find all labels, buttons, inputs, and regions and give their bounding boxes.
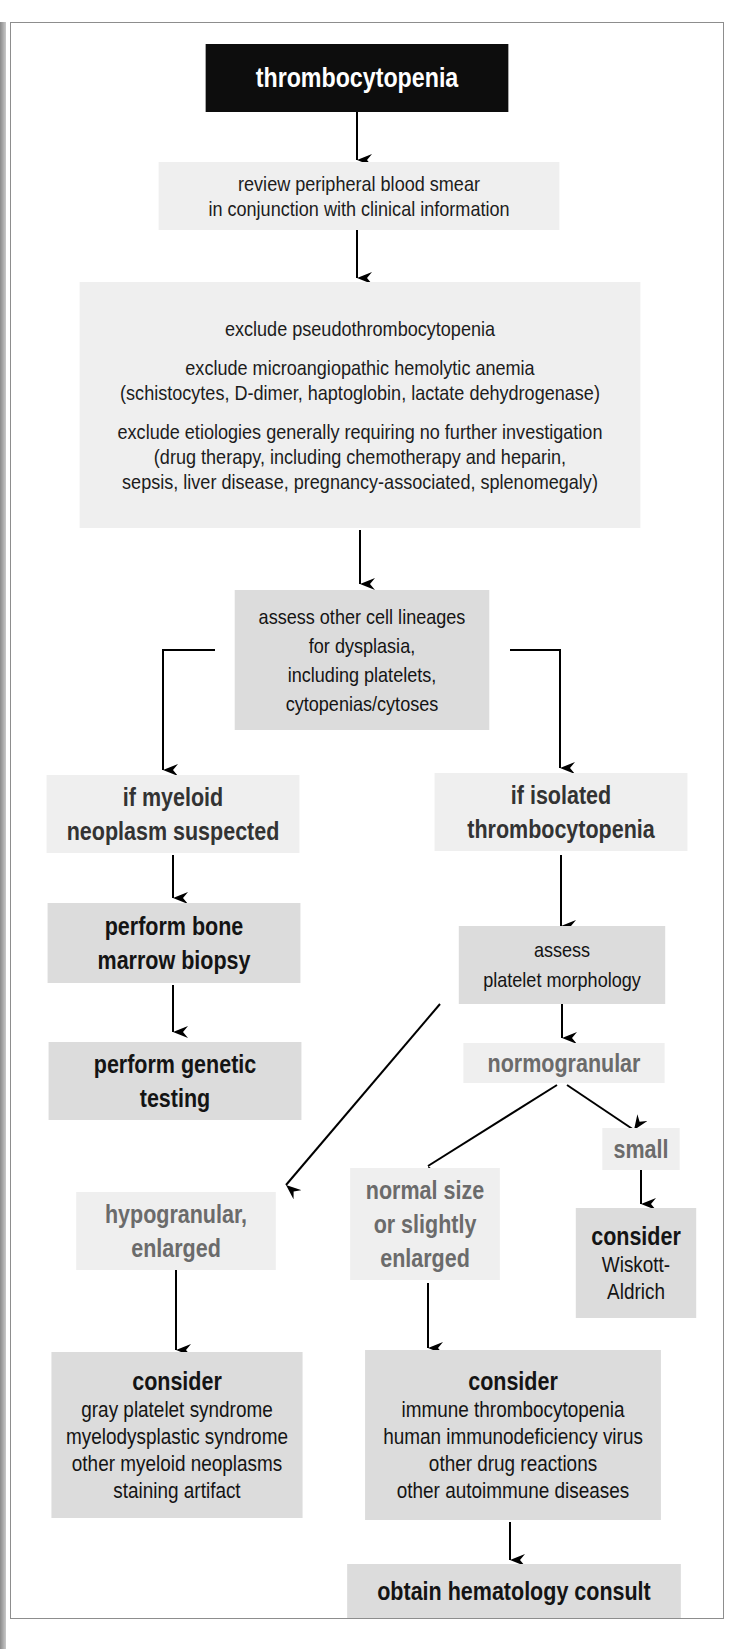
- myeloid-line-1: if myeloid: [123, 780, 223, 814]
- normal-size-line-1: normal size: [366, 1173, 484, 1207]
- genetic-line-2: testing: [140, 1081, 210, 1115]
- exclude-mah: exclude microangiopathic hemolytic anemi…: [185, 355, 534, 380]
- assess-platelet-morphology-box: assess platelet morphology: [459, 926, 665, 1004]
- myeloid-suspected-box: if myeloid neoplasm suspected: [47, 775, 300, 853]
- normogranular-text: normogranular: [488, 1046, 641, 1080]
- exclude-box: exclude pseudothrombocytopenia exclude m…: [80, 282, 641, 528]
- consider-right-box: consider immune thrombocytopenia human i…: [365, 1350, 661, 1520]
- genetic-testing-box: perform genetic testing: [49, 1042, 302, 1120]
- consider-right-item: immune thrombocytopenia: [402, 1396, 625, 1423]
- consider-left-item: other myeloid neoplasms: [72, 1450, 282, 1477]
- exclude-etiologies-detail-1: (drug therapy, including chemotherapy an…: [154, 444, 566, 469]
- consider-right-header: consider: [468, 1366, 558, 1396]
- bone-marrow-line-2: marrow biopsy: [98, 943, 251, 977]
- genetic-line-1: perform genetic: [94, 1047, 256, 1081]
- isolated-thrombocytopenia-box: if isolated thrombocytopenia: [435, 773, 688, 851]
- review-smear-box: review peripheral blood smear in conjunc…: [159, 162, 560, 230]
- hematology-consult-text: obtain hematology consult: [377, 1574, 651, 1608]
- isolated-line-1: if isolated: [511, 778, 611, 812]
- normal-size-box: normal size or slightly enlarged: [350, 1168, 500, 1280]
- normogranular-box: normogranular: [463, 1043, 664, 1083]
- assess-lineages-box: assess other cell lineages for dysplasia…: [235, 590, 490, 730]
- bone-marrow-biopsy-box: perform bone marrow biopsy: [48, 903, 301, 983]
- consider-left-item: myelodysplastic syndrome: [66, 1423, 288, 1450]
- assess-lineages-line-3: including platelets,: [288, 660, 437, 689]
- assess-lineages-line-4: cytopenias/cytoses: [286, 689, 439, 718]
- consider-left-item: staining artifact: [113, 1477, 240, 1504]
- title-text: thrombocytopenia: [256, 63, 459, 93]
- bone-marrow-line-1: perform bone: [105, 909, 244, 943]
- hypogranular-line-2: enlarged: [131, 1231, 221, 1265]
- small-text: small: [614, 1132, 669, 1166]
- exclude-pseudo: exclude pseudothrombocytopenia: [225, 316, 495, 341]
- wiskott-line-1: Wiskott-: [602, 1251, 670, 1278]
- exclude-etiologies: exclude etiologies generally requiring n…: [118, 419, 603, 444]
- consider-left-box: consider gray platelet syndrome myelodys…: [51, 1352, 302, 1518]
- assess-platelet-line-1: assess: [534, 935, 590, 965]
- assess-lineages-line-2: for dysplasia,: [309, 631, 415, 660]
- exclude-etiologies-detail-2: sepsis, liver disease, pregnancy-associa…: [122, 469, 598, 494]
- isolated-line-2: thrombocytopenia: [467, 812, 655, 846]
- consider-left-header: consider: [132, 1366, 222, 1396]
- consider-wiskott-box: consider Wiskott- Aldrich: [576, 1208, 696, 1318]
- consider-right-item: other drug reactions: [429, 1450, 597, 1477]
- hypogranular-line-1: hypogranular,: [105, 1197, 247, 1231]
- consider-right-item: other autoimmune diseases: [397, 1477, 629, 1504]
- normal-size-line-3: enlarged: [380, 1241, 470, 1275]
- review-line-2: in conjunction with clinical information: [208, 196, 509, 221]
- small-box: small: [602, 1128, 679, 1170]
- title-box: thrombocytopenia: [206, 44, 509, 112]
- hypogranular-box: hypogranular, enlarged: [76, 1192, 276, 1270]
- normal-size-line-2: or slightly: [374, 1207, 477, 1241]
- consider-left-item: gray platelet syndrome: [81, 1396, 272, 1423]
- consider-right-item: human immunodeficiency virus: [383, 1423, 643, 1450]
- exclude-mah-detail: (schistocytes, D-dimer, haptoglobin, lac…: [120, 380, 600, 405]
- myeloid-line-2: neoplasm suspected: [67, 814, 280, 848]
- assess-platelet-line-2: platelet morphology: [483, 965, 641, 995]
- consider-wiskott-header: consider: [591, 1221, 681, 1251]
- wiskott-line-2: Aldrich: [607, 1278, 665, 1305]
- hematology-consult-box: obtain hematology consult: [347, 1564, 681, 1618]
- assess-lineages-line-1: assess other cell lineages: [259, 602, 466, 631]
- review-line-1: review peripheral blood smear: [238, 171, 480, 196]
- page-edge-shadow: [0, 22, 6, 1649]
